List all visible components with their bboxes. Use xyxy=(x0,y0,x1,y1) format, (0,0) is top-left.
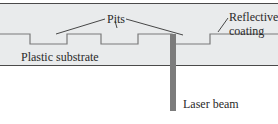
label-plastic-substrate: Plastic substrate xyxy=(21,50,99,64)
label-pits: Pits xyxy=(107,12,125,26)
label-laser-beam: Laser beam xyxy=(183,97,239,111)
laser-beam xyxy=(170,34,176,111)
label-reflective: Reflective xyxy=(229,10,278,24)
label-coating: coating xyxy=(229,24,264,38)
disc-diagram: Pits Reflective coating Plastic substrat… xyxy=(0,0,278,124)
